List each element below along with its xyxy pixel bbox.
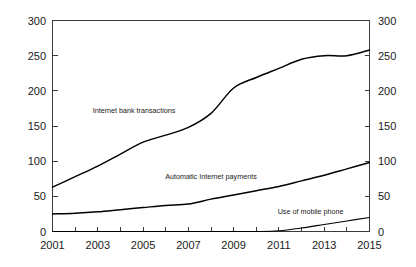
line-chart: 0 50 100 150 200 250 300 0 50 100 150 20… <box>0 0 416 267</box>
y-axis-right-ticks <box>365 21 370 232</box>
x-label-2005: 2005 <box>131 239 155 251</box>
series-annotation-internet-bank-transactions: Internet bank transactions <box>93 106 176 115</box>
y-label-right-200: 200 <box>378 85 396 97</box>
y-label-left-200: 200 <box>28 85 46 97</box>
x-label-2013: 2013 <box>312 239 336 251</box>
y-label-left-0: 0 <box>40 226 46 238</box>
series-line-internet-bank-transactions <box>53 50 370 187</box>
x-label-2003: 2003 <box>86 239 110 251</box>
y-axis-left-labels: 0 50 100 150 200 250 300 <box>28 15 46 238</box>
series-annotation-automatic-internet-payments: Automatic Internet payments <box>165 172 257 181</box>
y-label-left-100: 100 <box>28 155 46 167</box>
series-annotation-use-of-mobile-phone: Use of mobile phone <box>278 207 344 216</box>
x-label-2007: 2007 <box>176 239 200 251</box>
y-label-left-250: 250 <box>28 50 46 62</box>
y-label-right-250: 250 <box>378 50 396 62</box>
y-label-right-50: 50 <box>378 190 390 202</box>
x-label-2001: 2001 <box>40 239 64 251</box>
y-label-right-150: 150 <box>378 120 396 132</box>
chart-figure: 0 50 100 150 200 250 300 0 50 100 150 20… <box>0 0 416 267</box>
y-axis-left-ticks <box>53 21 58 232</box>
x-label-2015: 2015 <box>357 239 381 251</box>
y-label-left-50: 50 <box>34 190 46 202</box>
x-label-2011: 2011 <box>267 239 291 251</box>
x-axis-labels: 2001 2003 2005 2007 2009 2011 2013 2015 <box>40 239 381 251</box>
y-label-right-100: 100 <box>378 155 396 167</box>
y-label-right-300: 300 <box>378 15 396 27</box>
x-axis-ticks <box>53 227 370 232</box>
x-label-2009: 2009 <box>221 239 245 251</box>
y-axis-right-labels: 0 50 100 150 200 250 300 <box>378 15 396 238</box>
y-label-left-150: 150 <box>28 120 46 132</box>
y-label-left-300: 300 <box>28 15 46 27</box>
y-label-right-0: 0 <box>378 226 384 238</box>
